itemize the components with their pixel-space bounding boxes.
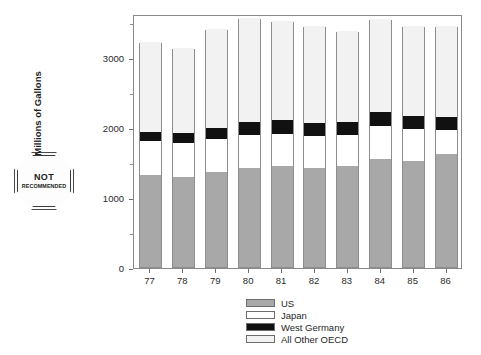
x-tick-mark <box>149 269 150 273</box>
bar-segment <box>403 129 424 161</box>
bar-segment <box>206 172 227 267</box>
bar-segment <box>403 161 424 267</box>
legend-label: All Other OECD <box>281 334 348 345</box>
x-tick-label: 83 <box>335 275 359 286</box>
bar-segment <box>173 133 194 143</box>
x-tick-label: 77 <box>137 275 161 286</box>
bar-85 <box>402 27 425 269</box>
bar-segment <box>173 177 194 267</box>
bar-segment <box>337 31 358 122</box>
legend-label: West Germany <box>281 322 344 333</box>
bar-segment <box>173 143 194 177</box>
bar-82 <box>303 27 326 269</box>
x-tick-mark <box>281 269 282 273</box>
bar-segment <box>304 168 325 267</box>
bar-segment <box>370 159 391 268</box>
bar-segment <box>337 166 358 268</box>
bar-80 <box>238 19 261 268</box>
x-tick-mark <box>248 269 249 273</box>
legend-item: All Other OECD <box>246 333 348 345</box>
x-tick-label: 84 <box>368 275 392 286</box>
bar-segment <box>370 126 391 158</box>
x-tick-label: 79 <box>203 275 227 286</box>
bar-segment <box>337 122 358 135</box>
y-tick-label: 0 <box>92 263 124 274</box>
legend-swatch <box>246 335 275 343</box>
chart-title <box>133 0 463 2</box>
bar-segment <box>436 117 457 130</box>
bar-78 <box>172 49 195 268</box>
bar-segment <box>304 123 325 136</box>
bar-segment <box>337 135 358 165</box>
chart-figure: NOT RECOMMENDED Millions of Gallons 0100… <box>0 0 481 355</box>
y-axis-title: Millions of Gallons <box>32 49 43 179</box>
x-tick-mark <box>347 269 348 273</box>
x-tick-label: 82 <box>302 275 326 286</box>
bar-segment <box>272 166 293 267</box>
bar-segment <box>436 26 457 117</box>
x-tick-label: 78 <box>170 275 194 286</box>
y-tick-label: 2000 <box>92 123 124 134</box>
bar-segment <box>239 18 260 122</box>
x-tick-label: 81 <box>269 275 293 286</box>
x-tick-mark <box>314 269 315 273</box>
bar-segment <box>304 136 325 168</box>
legend-label: US <box>281 298 294 309</box>
bar-segment <box>239 122 260 135</box>
bar-79 <box>205 30 228 268</box>
bar-segment <box>436 154 457 267</box>
x-tick-label: 86 <box>434 275 458 286</box>
bar-86 <box>435 27 458 269</box>
y-tick-mark <box>129 269 133 270</box>
x-tick-mark <box>446 269 447 273</box>
legend-swatch <box>246 299 275 307</box>
bar-segment <box>272 134 293 166</box>
y-axis: Millions of Gallons 0100020003000 <box>0 0 133 355</box>
legend-swatch <box>246 323 275 331</box>
x-tick-mark <box>413 269 414 273</box>
legend-item: Japan <box>246 309 348 321</box>
bar-segment <box>272 120 293 134</box>
legend-label: Japan <box>281 310 307 321</box>
bar-segment <box>436 130 457 155</box>
legend-item: US <box>246 297 348 309</box>
x-tick-mark <box>215 269 216 273</box>
bar-segment <box>403 116 424 129</box>
bar-84 <box>369 20 392 269</box>
y-tick-label: 3000 <box>92 53 124 64</box>
bar-segment <box>173 48 194 133</box>
legend-swatch <box>246 311 275 319</box>
bar-segment <box>140 175 161 267</box>
bar-77 <box>139 43 162 268</box>
bar-segment <box>239 168 260 267</box>
x-tick-label: 80 <box>236 275 260 286</box>
bar-segment <box>206 29 227 128</box>
bar-segment <box>206 139 227 172</box>
bar-segment <box>272 21 293 120</box>
bar-segment <box>403 26 424 116</box>
bar-segment <box>304 26 325 123</box>
y-tick-label: 1000 <box>92 193 124 204</box>
x-tick-mark <box>182 269 183 273</box>
plot-area <box>133 15 462 269</box>
bar-segment <box>239 135 260 167</box>
bar-81 <box>271 22 294 268</box>
bar-segment <box>370 19 391 113</box>
bar-segment <box>140 141 161 175</box>
chart-legend: USJapanWest GermanyAll Other OECD <box>246 297 348 345</box>
bar-segment <box>206 128 227 139</box>
x-tick-mark <box>380 269 381 273</box>
bar-segment <box>370 112 391 126</box>
x-tick-label: 85 <box>401 275 425 286</box>
bar-segment <box>140 132 161 141</box>
bar-segment <box>140 42 161 132</box>
bar-83 <box>336 32 359 268</box>
legend-item: West Germany <box>246 321 348 333</box>
